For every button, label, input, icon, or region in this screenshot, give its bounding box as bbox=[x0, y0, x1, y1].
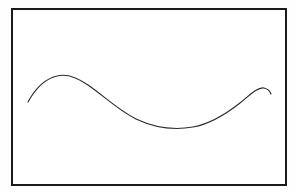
diagram-frame bbox=[11, 8, 287, 186]
diagram-canvas bbox=[0, 0, 298, 194]
